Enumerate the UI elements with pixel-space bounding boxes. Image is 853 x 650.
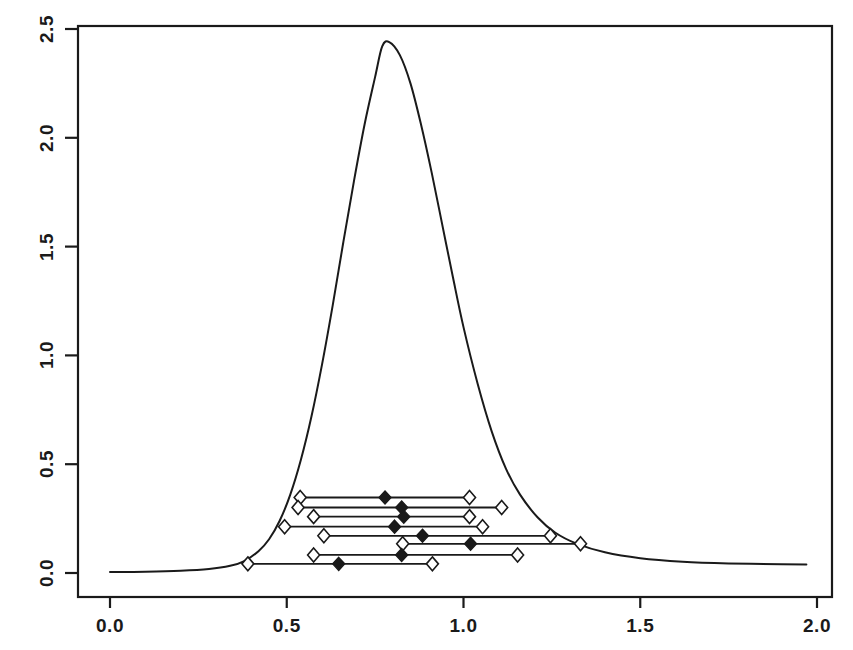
interval-row [292,501,508,515]
interval-lower-endpoint-icon [242,557,254,571]
interval-upper-endpoint-icon [512,548,524,562]
x-tick-label: 2.0 [787,615,847,637]
interval-estimate-marker-icon [396,548,408,561]
interval-upper-endpoint-icon [575,537,587,551]
y-tick-label: 2.5 [36,0,58,59]
x-tick-label: 1.0 [434,615,494,637]
interval-row [279,520,489,534]
interval-upper-endpoint-icon [464,510,476,524]
interval-row [308,510,476,524]
interval-upper-endpoint-icon [426,557,438,571]
chart-figure: 0.00.51.01.52.00.00.51.01.52.02.5 [0,0,853,650]
interval-lower-endpoint-icon [318,529,330,543]
interval-estimate-marker-icon [416,529,428,542]
interval-estimate-marker-icon [379,491,391,504]
y-tick-label: 0.5 [36,434,58,494]
interval-upper-endpoint-icon [477,520,489,534]
plot-canvas [0,0,853,650]
interval-row [318,529,557,543]
plot-box [78,26,832,597]
interval-lower-endpoint-icon [308,510,320,524]
interval-lower-endpoint-icon [308,548,320,562]
interval-row [242,557,439,571]
y-tick-label: 1.0 [36,325,58,385]
x-tick-label: 0.5 [257,615,317,637]
interval-row [294,490,475,504]
y-tick-label: 1.5 [36,217,58,277]
interval-estimate-marker-icon [389,520,401,533]
axis-ticks [65,29,817,608]
y-tick-label: 2.0 [36,108,58,168]
x-tick-label: 1.5 [610,615,670,637]
x-tick-label: 0.0 [80,615,140,637]
interval-upper-endpoint-icon [464,490,476,504]
interval-lines [242,490,587,570]
y-tick-label: 0.0 [36,543,58,603]
interval-upper-endpoint-icon [544,529,556,543]
interval-estimate-marker-icon [465,537,477,550]
density-curve [110,41,806,572]
interval-estimate-marker-icon [333,557,345,570]
interval-upper-endpoint-icon [496,501,508,515]
interval-lower-endpoint-icon [279,520,291,534]
